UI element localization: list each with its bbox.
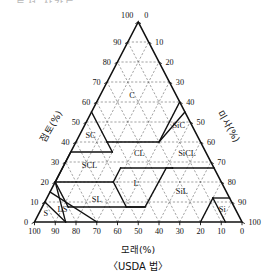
axis-label-silt-20: 20 bbox=[165, 58, 173, 67]
axis-label-silt-30: 30 bbox=[176, 78, 184, 87]
axis-label-silt-50: 50 bbox=[197, 118, 205, 127]
axis-label-clay-60: 60 bbox=[82, 98, 90, 107]
grid-line-sand-70 bbox=[66, 162, 97, 222]
triangle-outline bbox=[35, 22, 243, 222]
axis-label-silt-0: 0 bbox=[144, 11, 148, 20]
boundary-sl-upper bbox=[55, 182, 65, 222]
axis-label-clay-100: 100 bbox=[121, 11, 133, 20]
boundary-sandy-clay-left bbox=[107, 142, 112, 152]
boundary-silt-top bbox=[201, 198, 213, 222]
class-label-l: L bbox=[134, 179, 139, 188]
class-label-sic: SiC bbox=[172, 121, 185, 130]
class-label-ls: LS bbox=[58, 205, 68, 214]
class-label-scl: SCL bbox=[82, 161, 97, 170]
axis-label-clay-50: 50 bbox=[72, 118, 80, 127]
boundary-loam-lower bbox=[126, 168, 166, 207]
axis-label-sand-100: 100 bbox=[28, 227, 40, 236]
axis-label-sand-50: 50 bbox=[134, 227, 142, 236]
texture-class-labels-layer: CSiCSCCLSiCLSCLLSiLSiSLLSS bbox=[44, 91, 227, 218]
class-label-sl: SL bbox=[92, 195, 102, 204]
boundary-clay-loam-left bbox=[113, 168, 120, 182]
grid-line-sand-10 bbox=[128, 42, 221, 222]
axis-label-sand-90: 90 bbox=[51, 227, 59, 236]
axis-label-clay-40: 40 bbox=[61, 138, 69, 147]
soil-texture-triangle-figure: · 토성 삼각도 1009080706050403020100100908070… bbox=[0, 0, 277, 278]
class-label-c: C bbox=[129, 91, 135, 100]
axis-label-sand-20: 20 bbox=[196, 227, 204, 236]
grid-lines-layer bbox=[45, 42, 232, 222]
triangle-edges bbox=[35, 22, 243, 222]
class-label-sc: SC bbox=[85, 131, 96, 140]
class-label-sil: SiL bbox=[176, 187, 188, 196]
axis-label-sand-0: 0 bbox=[240, 227, 244, 236]
axis-label-sand-80: 80 bbox=[72, 227, 80, 236]
axis-label-silt-100: 100 bbox=[249, 218, 261, 227]
tick-marks-layer bbox=[32, 22, 245, 225]
axis-label-sand-10: 10 bbox=[217, 227, 225, 236]
class-label-sicl: SiCL bbox=[178, 149, 196, 158]
class-label-cl: CL bbox=[134, 149, 145, 158]
boundary-loam-left bbox=[113, 182, 126, 207]
figure-caption: 〈USDA 법〉 bbox=[108, 261, 168, 272]
axis-label-clay-0: 0 bbox=[24, 218, 28, 227]
axis-label-clay-80: 80 bbox=[103, 58, 111, 67]
axis-label-sand-30: 30 bbox=[176, 227, 184, 236]
axis-label-sand-60: 60 bbox=[113, 227, 121, 236]
axis-label-clay-70: 70 bbox=[92, 78, 100, 87]
left-axis-title: 점토(%) bbox=[38, 109, 65, 144]
axis-label-clay-10: 10 bbox=[30, 198, 38, 207]
boundary-scl-to-sl bbox=[55, 182, 68, 207]
axis-label-silt-60: 60 bbox=[207, 138, 215, 147]
axis-label-silt-10: 10 bbox=[155, 38, 163, 47]
axis-label-silt-80: 80 bbox=[228, 178, 236, 187]
axis-label-sand-40: 40 bbox=[155, 227, 163, 236]
class-label-si: Si bbox=[219, 205, 227, 214]
ternary-diagram-canvas: 1009080706050403020100100908070605040302… bbox=[0, 0, 277, 278]
bottom-axis-title: 모래(%) bbox=[121, 244, 155, 255]
axis-label-sand-70: 70 bbox=[93, 227, 101, 236]
class-label-s: S bbox=[44, 209, 49, 218]
axis-label-clay-20: 20 bbox=[41, 178, 49, 187]
axis-label-silt-70: 70 bbox=[217, 158, 225, 167]
axis-label-clay-90: 90 bbox=[113, 38, 121, 47]
right-axis-title: 미사(%) bbox=[216, 109, 243, 144]
axis-label-silt-40: 40 bbox=[186, 98, 194, 107]
axis-label-silt-90: 90 bbox=[238, 198, 246, 207]
axis-label-clay-30: 30 bbox=[51, 158, 59, 167]
